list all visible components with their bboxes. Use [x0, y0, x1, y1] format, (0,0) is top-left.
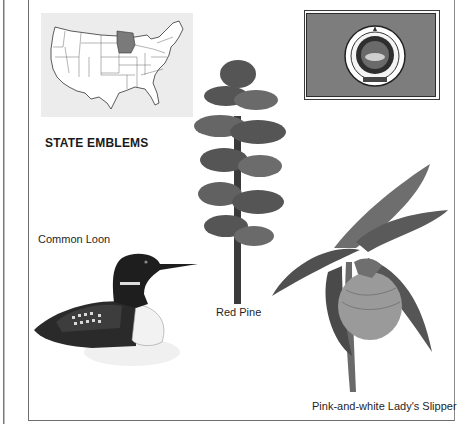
ladys-slipper-illustration-icon [272, 162, 452, 398]
us-map [41, 13, 193, 117]
common-loon-illustration-icon [32, 242, 200, 374]
minnesota-highlight [117, 31, 135, 53]
page-gutter-shadow [4, 0, 5, 424]
page-title: STATE EMBLEMS [45, 136, 149, 150]
common-loon-caption: Common Loon [38, 233, 110, 245]
red-pine-caption: Red Pine [216, 306, 261, 318]
us-map-outline-icon [41, 13, 193, 117]
ladys-slipper-caption: Pink-and-white Lady's Slipper [312, 400, 457, 412]
state-seal-icon [343, 24, 407, 88]
